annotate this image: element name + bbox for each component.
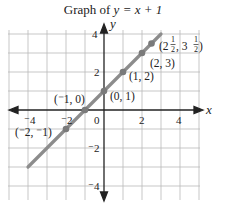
label-2half-3half: (2 1 2 , 3 1 2 )	[159, 35, 203, 54]
label-neg1-0: (⁻1, 0)	[54, 93, 85, 106]
point-0-1	[101, 88, 108, 95]
x-axis	[9, 107, 203, 114]
point-2-3	[139, 50, 146, 57]
half-den-1: 2	[171, 45, 175, 54]
label-1-2: (1, 2)	[129, 70, 154, 83]
label-2-3: (2, 3)	[150, 57, 175, 70]
x-tick-neg2: ⁻2	[61, 114, 73, 126]
point-2half-3half	[148, 40, 155, 47]
label-0-1: (0, 1)	[110, 90, 135, 103]
x-tick-2: 2	[139, 114, 145, 126]
graph-plot: x y ⁻4 ⁻2 0 2 4 4 2 ⁻2 ⁻4 (⁻2, ⁻1) (⁻1, …	[0, 0, 226, 210]
y-tick-2: 2	[94, 66, 100, 78]
x-axis-label: x	[205, 102, 212, 117]
origin-label: 0	[94, 114, 100, 126]
y-tick-4: 4	[92, 28, 98, 40]
point-neg2-neg1	[63, 126, 70, 133]
y-axis	[101, 24, 108, 201]
y-tick-neg2: ⁻2	[88, 142, 100, 154]
label-2half-part-b: , 3	[176, 40, 188, 53]
half-den-2: 2	[194, 45, 198, 54]
label-2half-part-a: (2	[159, 40, 169, 53]
x-tick-neg4: ⁻4	[24, 114, 36, 126]
label-neg2-neg1: (⁻2, ⁻1)	[15, 126, 52, 139]
label-2half-part-c: )	[199, 40, 203, 53]
point-neg1-0	[82, 107, 89, 114]
half-num-2: 1	[194, 35, 198, 44]
half-num-1: 1	[171, 35, 175, 44]
point-1-2	[120, 69, 127, 76]
y-axis-label: y	[108, 16, 116, 31]
y-tick-neg4: ⁻4	[88, 180, 100, 192]
x-tick-4: 4	[176, 114, 182, 126]
